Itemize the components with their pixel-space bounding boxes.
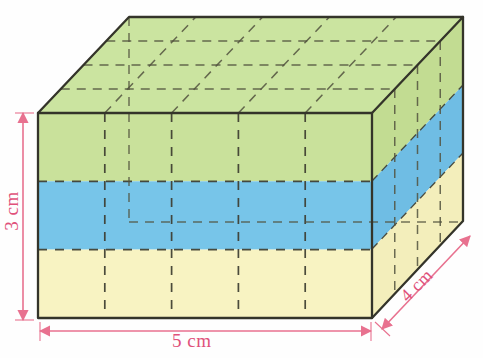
volume-prism-figure: 3 cm 5 cm 4 cm (0, 0, 483, 358)
width-dimension-label: 5 cm (172, 330, 211, 352)
front-face (38, 113, 372, 318)
height-dimension-label: 3 cm (1, 191, 23, 230)
